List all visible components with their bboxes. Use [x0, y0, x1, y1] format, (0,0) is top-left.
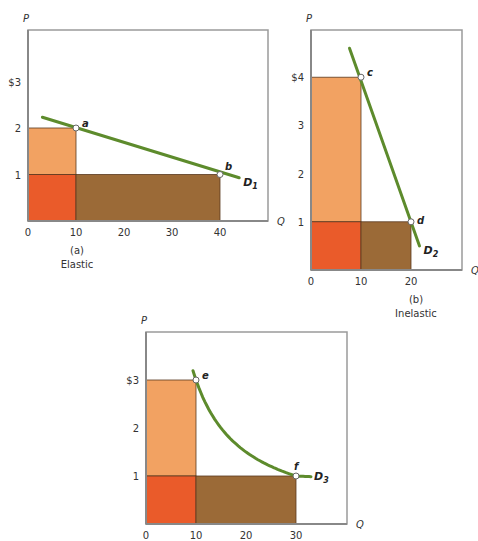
panel-c: D3ef010203012$3PQ — [126, 315, 364, 541]
revenue-rect-overlap — [146, 476, 196, 524]
demand-label: D3 — [314, 470, 329, 485]
y-tick-label: 1 — [133, 471, 139, 482]
x-tick-label: 40 — [214, 227, 227, 238]
x-tick-label: 30 — [290, 530, 303, 541]
point-label-f: f — [294, 461, 300, 472]
revenue-rect-upper — [28, 128, 76, 175]
point-a — [73, 125, 79, 131]
x-tick-label: 10 — [190, 530, 203, 541]
y-tick-label: 3 — [298, 120, 304, 131]
x-tick-label: 0 — [25, 227, 31, 238]
point-label-c: c — [367, 67, 373, 78]
x-tick-label: 10 — [355, 276, 368, 287]
x-tick-label: 10 — [70, 227, 83, 238]
x-tick-label: 0 — [143, 530, 149, 541]
revenue-rect-upper — [146, 380, 196, 476]
point-d — [408, 219, 414, 225]
y-tick-label: 1 — [15, 170, 21, 181]
panel-a: D1ab01020304012$3PQ(a)Elastic — [8, 13, 285, 270]
demand-label: D2 — [424, 244, 439, 259]
y-tick-label: $3 — [8, 77, 21, 88]
x-tick-label: 20 — [240, 530, 253, 541]
y-tick-label: 2 — [15, 123, 21, 134]
x-tick-label: 20 — [405, 276, 418, 287]
y-axis-label: P — [23, 13, 30, 24]
point-e — [193, 377, 199, 383]
y-axis-label: P — [306, 13, 313, 24]
panel-label: (a) — [70, 245, 84, 256]
x-tick-label: 30 — [166, 227, 179, 238]
y-axis-label: P — [141, 315, 148, 326]
point-label-e: e — [202, 370, 209, 381]
panel-b: D2cd01020123$4PQ(b)Inelastic — [291, 13, 478, 319]
point-c — [358, 74, 364, 80]
revenue-rect-right — [196, 476, 296, 524]
y-tick-label: 1 — [298, 217, 304, 228]
revenue-rect-overlap — [311, 222, 361, 270]
x-tick-label: 20 — [118, 227, 131, 238]
panel-caption: Inelastic — [395, 308, 437, 319]
revenue-rect-overlap — [28, 175, 76, 222]
point-label-d: d — [417, 215, 425, 226]
revenue-rect-right — [76, 175, 220, 222]
point-f — [293, 473, 299, 479]
y-tick-label: $3 — [126, 375, 139, 386]
x-tick-label: 0 — [308, 276, 314, 287]
point-label-a: a — [82, 118, 89, 129]
x-axis-label: Q — [277, 216, 285, 227]
panel-label: (b) — [409, 294, 423, 305]
panel-caption: Elastic — [61, 259, 94, 270]
point-b — [217, 172, 223, 178]
y-tick-label: 2 — [133, 423, 139, 434]
x-axis-label: Q — [356, 519, 364, 530]
elasticity-revenue-figure: D1ab01020304012$3PQ(a)ElasticD2cd0102012… — [0, 0, 478, 541]
revenue-rect-right — [361, 222, 411, 270]
x-axis-label: Q — [471, 265, 478, 276]
revenue-rect-upper — [311, 77, 361, 222]
point-label-b: b — [225, 161, 232, 172]
demand-label: D1 — [243, 176, 258, 191]
y-tick-label: $4 — [291, 72, 304, 83]
y-tick-label: 2 — [298, 169, 304, 180]
